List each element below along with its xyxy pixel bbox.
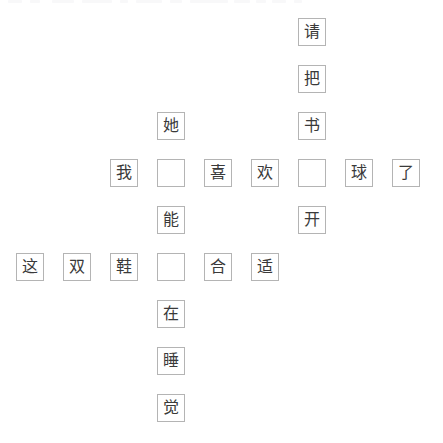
toolbar-ghost-11 xyxy=(272,0,286,3)
grid-cell-filled-r3c4[interactable]: 她 xyxy=(157,112,185,140)
grid-cell-filled-r4c6[interactable]: 欢 xyxy=(251,159,279,187)
grid-cell-filled-r5c7[interactable]: 开 xyxy=(298,206,326,234)
grid-cell-filled-r4c8[interactable]: 球 xyxy=(345,159,373,187)
grid-cell-filled-r1c7[interactable]: 请 xyxy=(298,18,326,46)
grid-cell-filled-r9c4[interactable]: 觉 xyxy=(157,394,185,422)
grid-cell-filled-r4c5[interactable]: 喜 xyxy=(204,159,232,187)
grid-cell-filled-r5c4[interactable]: 能 xyxy=(157,206,185,234)
grid-cell-filled-r2c7[interactable]: 把 xyxy=(298,65,326,93)
toolbar-ghost-2 xyxy=(30,0,40,3)
toolbar-ghost-1 xyxy=(8,0,22,3)
grid-cell-filled-r6c3[interactable]: 鞋 xyxy=(110,253,138,281)
grid-cell-filled-r4c3[interactable]: 我 xyxy=(110,159,138,187)
toolbar-ghost-7 xyxy=(170,0,182,3)
toolbar-ghost-3 xyxy=(52,0,74,3)
crossword-board: 请把她书我喜欢球了能开这双鞋合适在睡觉 xyxy=(0,0,443,443)
grid-cell-filled-r6c1[interactable]: 这 xyxy=(16,253,44,281)
toolbar-ghost-8 xyxy=(190,0,228,3)
toolbar-ghost-6 xyxy=(136,0,162,3)
toolbar-ghost-12 xyxy=(294,0,302,3)
grid-cell-empty-r4c4[interactable] xyxy=(157,159,185,187)
clipped-toolbar-strip xyxy=(0,0,443,6)
grid-cell-filled-r8c4[interactable]: 睡 xyxy=(157,347,185,375)
grid-cell-filled-r6c2[interactable]: 双 xyxy=(63,253,91,281)
grid-cell-filled-r3c7[interactable]: 书 xyxy=(298,112,326,140)
grid-cell-filled-r6c6[interactable]: 适 xyxy=(251,253,279,281)
grid-cell-empty-r4c7[interactable] xyxy=(298,159,326,187)
toolbar-ghost-9 xyxy=(234,0,250,3)
toolbar-ghost-10 xyxy=(256,0,266,3)
toolbar-ghost-5 xyxy=(120,0,128,3)
toolbar-ghost-4 xyxy=(82,0,112,3)
grid-cell-filled-r4c9[interactable]: 了 xyxy=(392,159,420,187)
grid-cell-filled-r7c4[interactable]: 在 xyxy=(157,300,185,328)
grid-cell-empty-r6c4[interactable] xyxy=(157,253,185,281)
grid-cell-filled-r6c5[interactable]: 合 xyxy=(204,253,232,281)
